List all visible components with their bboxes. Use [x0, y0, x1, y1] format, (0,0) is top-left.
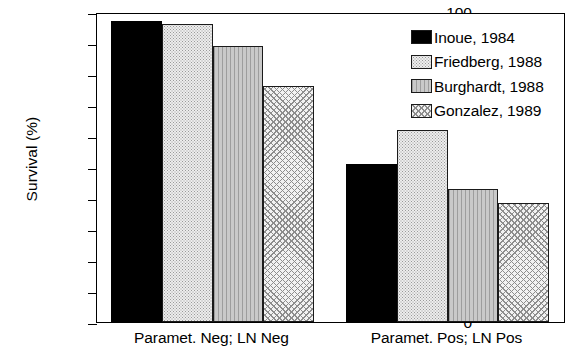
y-tick-mark — [88, 293, 97, 294]
legend-label: Burghardt, 1988 — [434, 79, 544, 95]
bar — [397, 130, 448, 322]
y-tick-mark — [88, 45, 97, 46]
legend-swatch-icon — [411, 79, 432, 93]
chart-legend: Inoue, 1984Friedberg, 1988Burghardt, 198… — [407, 19, 559, 130]
bar — [213, 46, 264, 322]
legend-label: Inoue, 1984 — [434, 30, 515, 46]
bar — [263, 86, 314, 322]
plot-inner: Inoue, 1984Friedberg, 1988Burghardt, 198… — [97, 14, 564, 322]
y-tick-mark — [88, 200, 97, 201]
y-tick-mark — [88, 107, 97, 108]
legend-item: Burghardt, 1988 — [411, 74, 555, 99]
plot-area: Inoue, 1984Friedberg, 1988Burghardt, 198… — [96, 13, 565, 323]
y-tick-mark — [88, 262, 97, 263]
legend-swatch-icon — [411, 55, 432, 69]
x-axis-group-label: Paramet. Pos; LN Pos — [337, 329, 557, 347]
y-tick-mark — [88, 324, 97, 325]
y-tick-mark — [88, 138, 97, 139]
bar — [111, 21, 162, 322]
bar — [162, 24, 213, 322]
y-tick-mark — [88, 169, 97, 170]
bar — [346, 164, 397, 322]
x-axis-group-label: Paramet. Neg; LN Neg — [102, 329, 322, 347]
bar — [498, 203, 549, 322]
y-axis-title: Survival (%) — [23, 69, 41, 249]
legend-item: Friedberg, 1988 — [411, 50, 555, 75]
legend-label: Friedberg, 1988 — [434, 54, 542, 70]
y-tick-mark — [88, 14, 97, 15]
bar — [448, 189, 499, 322]
y-tick-mark — [88, 231, 97, 232]
y-tick-mark — [88, 76, 97, 77]
legend-swatch-icon — [411, 30, 432, 44]
legend-label: Gonzalez, 1989 — [434, 103, 541, 119]
legend-swatch-icon — [411, 104, 432, 118]
bar-chart: Survival (%) 1009080706050403020100 Inou… — [0, 0, 574, 363]
legend-item: Inoue, 1984 — [411, 25, 555, 50]
legend-item: Gonzalez, 1989 — [411, 99, 555, 124]
